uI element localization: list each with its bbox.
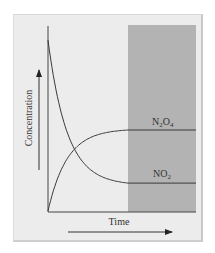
y-axis-label: Concentration — [23, 90, 34, 147]
chart: N2O4 NO2 Time Concentration — [0, 0, 215, 253]
x-axis-label: Time — [109, 216, 130, 227]
